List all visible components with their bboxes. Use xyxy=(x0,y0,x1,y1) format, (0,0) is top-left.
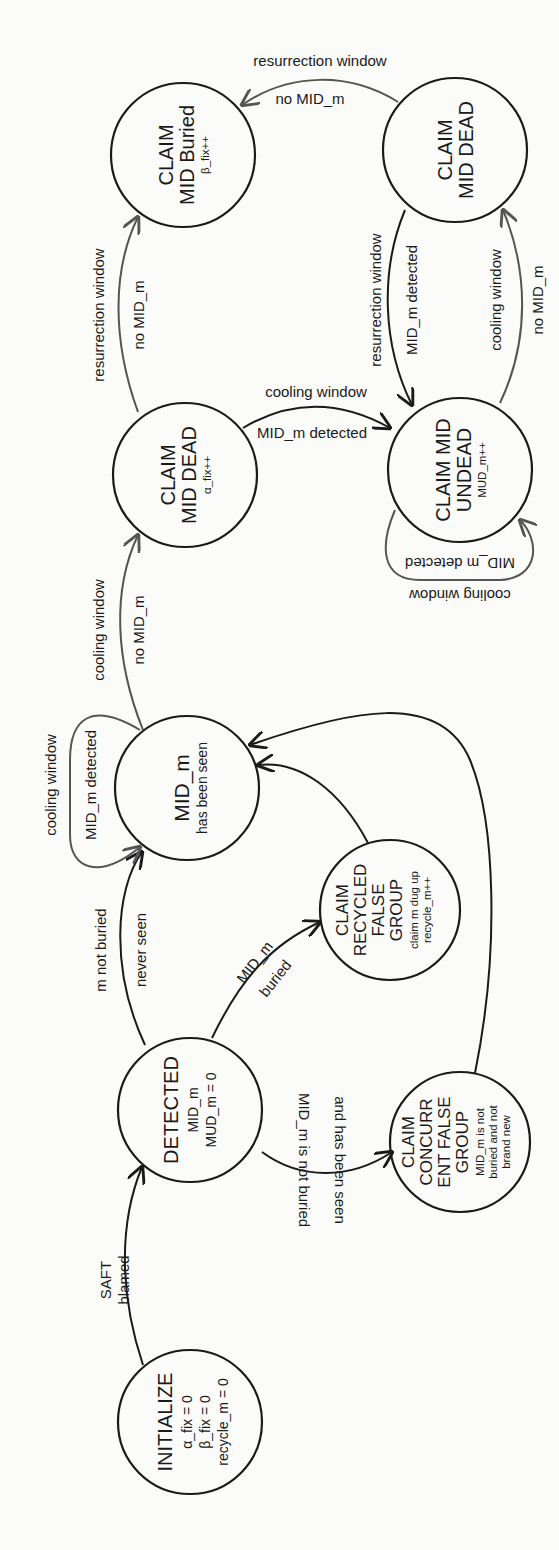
edge-label-line: MID_m is not buried xyxy=(296,1093,313,1227)
node-detected-label: DETECTED MID_m MUD_m = 0 xyxy=(160,1056,219,1164)
concurrent-title: CLAIM xyxy=(399,1116,418,1168)
edge-label-line: SAFT xyxy=(97,1261,114,1299)
node-recycled-label: CLAIM RECYCLED FALSE GROUP claim m dug u… xyxy=(333,864,433,957)
dead-top-title: MID DEAD xyxy=(455,101,477,199)
edge-label-line: MID_m detected xyxy=(257,424,367,441)
detected-line: MID_m xyxy=(185,1087,201,1132)
undead-title: CLAIM MID xyxy=(432,418,454,521)
edge-label-line: cooling window xyxy=(90,579,107,681)
edge-label-line: blamed xyxy=(115,1255,132,1304)
dead-alpha-line: α_fix++ xyxy=(201,456,213,494)
edge-label-line: resurrection window xyxy=(90,248,107,382)
edge-label-line: no MID_m xyxy=(130,280,147,349)
initialize-line: recycle_m = 0 xyxy=(215,1378,231,1466)
dead-top-title: CLAIM xyxy=(434,119,456,180)
edge-label-line: no MID_m xyxy=(130,595,147,664)
node-seen-label: MID_m has been seen xyxy=(170,742,210,834)
buried-line: β_fix++ xyxy=(199,136,211,174)
undead-title: UNDEAD xyxy=(453,428,475,512)
recycled-line: recycle_m++ xyxy=(421,877,433,943)
edge-label-undead-deadtop: cooling window no MID_m xyxy=(487,249,546,351)
seen-line: has been seen xyxy=(194,742,210,834)
undead-line: MUD_m++ xyxy=(476,442,488,498)
edge-label-line: cooling window xyxy=(409,587,511,604)
dead-alpha-title: CLAIM xyxy=(157,444,179,505)
edge-label-line: no MID_m xyxy=(529,265,546,334)
state-diagram: INITIALIZE α_fix = 0 β_fix = 0 recycle_m… xyxy=(0,0,559,1550)
edge-label-init-detected: SAFT blamed xyxy=(97,1255,132,1304)
node-dead-top-label: CLAIM MID DEAD xyxy=(434,101,477,199)
edge-seen-self-loop xyxy=(70,716,140,868)
edge-label-detected-concurrent: and has been seen MID_m is not buried xyxy=(296,1093,349,1227)
initialize-line: α_fix = 0 xyxy=(179,1395,195,1449)
node-buried-label: CLAIM MID Buried β_fix++ xyxy=(155,105,211,205)
recycled-line: claim m dug up xyxy=(408,871,420,949)
edge-label-line: and has been seen xyxy=(332,1096,349,1224)
edge-label-line: resurrection window xyxy=(367,233,384,367)
edge-label-line: cooling window xyxy=(265,383,367,400)
concurrent-line: buried and not xyxy=(487,1104,499,1178)
detected-line: MUD_m = 0 xyxy=(203,1072,219,1147)
edge-label-line: cooling window xyxy=(42,734,59,836)
recycled-title: RECYCLED xyxy=(351,864,370,957)
edge-label-deadtop-undead: resurrection window MID_m detected xyxy=(367,233,420,367)
concurrent-title: CONCURR xyxy=(417,1099,436,1186)
recycled-title: FALSE xyxy=(369,884,388,937)
node-concurrent-label: CLAIM CONCURR ENT FALSE GROUP MID_m is n… xyxy=(399,1096,512,1187)
edge-label-line: MID_m detected xyxy=(405,555,515,572)
seen-title: MID_m xyxy=(170,754,194,822)
buried-title: MID Buried xyxy=(176,105,198,205)
concurrent-line: brand new xyxy=(500,1114,512,1168)
recycled-title: GROUP xyxy=(387,879,406,941)
edge-label-detected-recycled: MID_m buried xyxy=(233,938,297,1003)
edge-label-line: cooling window xyxy=(487,249,504,351)
edge-label-line: MID_m detected xyxy=(403,245,420,355)
buried-title: CLAIM xyxy=(155,124,177,185)
edge-label-seen-deadalpha: cooling window no MID_m xyxy=(90,579,147,681)
concurrent-line: MID_m is not xyxy=(474,1107,486,1176)
node-initialize-label: INITIALIZE α_fix = 0 β_fix = 0 recycle_m… xyxy=(154,1373,231,1472)
initialize-line: β_fix = 0 xyxy=(197,1395,213,1449)
edge-label-line: m not buried xyxy=(92,908,109,991)
dead-alpha-title: MID DEAD xyxy=(178,426,200,524)
concurrent-title: ENT FALSE xyxy=(435,1096,454,1187)
concurrent-title: GROUP xyxy=(453,1111,472,1173)
node-dead-alpha-label: CLAIM MID DEAD α_fix++ xyxy=(157,426,213,524)
edge-label-line: no MID_m xyxy=(275,90,344,107)
edge-label-line: resurrection window xyxy=(253,52,387,69)
node-undead-label: CLAIM MID UNDEAD MUD_m++ xyxy=(432,418,488,521)
edge-label-line: MID_m detected xyxy=(82,730,99,840)
edge-detected-to-concurrent xyxy=(262,1152,392,1173)
initialize-title: INITIALIZE xyxy=(154,1373,176,1472)
edge-recycled-to-seen xyxy=(258,764,368,843)
detected-title: DETECTED xyxy=(160,1056,182,1164)
edge-label-line: never seen xyxy=(132,913,149,987)
recycled-title: CLAIM xyxy=(333,884,352,936)
